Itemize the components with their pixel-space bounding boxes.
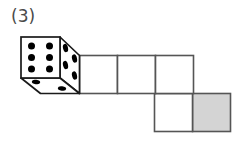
net-cell-1 xyxy=(80,56,118,94)
pip xyxy=(46,43,53,50)
pip xyxy=(46,54,53,61)
pip xyxy=(28,54,35,61)
figure-illustration xyxy=(0,0,246,149)
net-cell-2 xyxy=(118,56,156,94)
figure-stage: (3) xyxy=(0,0,246,149)
pip xyxy=(28,43,35,50)
three-dimensional-die xyxy=(21,37,80,94)
net-cell-4 xyxy=(155,94,193,132)
pip xyxy=(28,66,35,73)
net-cell-5-shaded xyxy=(193,94,231,132)
die-front-face xyxy=(21,37,60,78)
cube-net-grid xyxy=(80,56,231,132)
net-cell-3 xyxy=(156,56,194,94)
pip xyxy=(46,66,53,73)
